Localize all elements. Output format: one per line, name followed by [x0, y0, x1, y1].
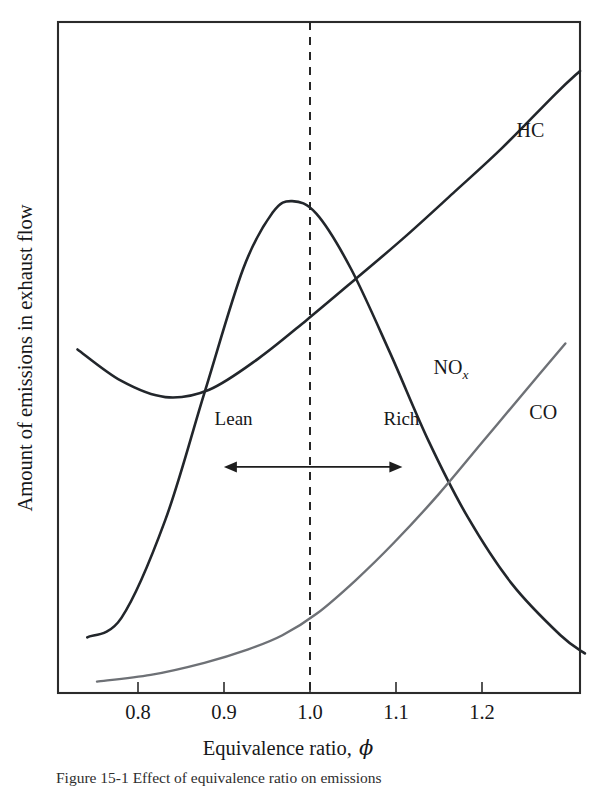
x-tick-label-2: 1.0	[297, 701, 323, 723]
series-label-co: CO	[529, 401, 557, 423]
arrow-head-right-icon	[389, 461, 402, 472]
figure-caption: Figure 15-1 Effect of equivalence ratio …	[56, 770, 382, 786]
y-axis-title: Amount of emissions in exhaust flow	[14, 204, 36, 511]
figure-caption-clip: Figure 15-1 Effect of equivalence ratio …	[0, 770, 604, 786]
x-axis-title: Equivalence ratio,ϕ	[203, 736, 373, 760]
figure-root: 0.8 0.9 1.0 1.1 1.2 Equivalence ratio,ϕ …	[0, 0, 604, 786]
x-axis-title-group: Equivalence ratio,ϕ	[203, 736, 373, 760]
x-tick-label-4: 1.2	[469, 701, 495, 723]
x-tick-label-0: 0.8	[125, 701, 151, 723]
x-tick-label-3: 1.1	[383, 701, 409, 723]
curve-nox	[87, 201, 585, 653]
lean-rich-annotation: Lean Rich	[215, 408, 420, 473]
rich-label: Rich	[383, 408, 419, 429]
series-label-nox: NOx	[434, 356, 469, 382]
x-axis-tick-labels: 0.8 0.9 1.0 1.1 1.2	[125, 701, 495, 723]
emissions-vs-equivalence-ratio-chart: 0.8 0.9 1.0 1.1 1.2 Equivalence ratio,ϕ …	[0, 0, 604, 786]
lean-label: Lean	[215, 408, 253, 429]
series-label-hc: HC	[517, 119, 545, 141]
x-tick-label-1: 0.9	[211, 701, 237, 723]
curve-hc	[78, 71, 580, 398]
arrow-head-left-icon	[224, 461, 237, 472]
